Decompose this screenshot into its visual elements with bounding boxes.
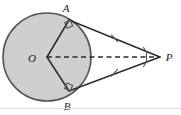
label-point-b: B <box>64 100 71 112</box>
geometry-figure: O A B P <box>0 0 181 115</box>
geometry-diagram-svg: O A B P <box>0 0 181 115</box>
label-point-a: A <box>62 2 70 14</box>
angle-mark-p-lower <box>144 57 147 67</box>
label-point-p: P <box>165 51 173 63</box>
angle-mark-p-upper <box>144 48 147 58</box>
label-point-o: O <box>28 52 36 64</box>
